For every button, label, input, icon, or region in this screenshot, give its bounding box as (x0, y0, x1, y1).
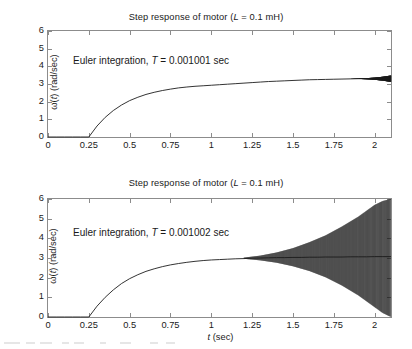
plot-title-bottom-post: = 0.1 mH) (239, 178, 284, 188)
cropped-caption-artifact (0, 336, 412, 348)
plot-title-top-pre: Step response of motor ( (129, 12, 234, 22)
x-tick-label-bottom-2: 0.5 (123, 321, 136, 330)
response-curve-bottom (48, 199, 391, 317)
y-tick-label-bottom-6: 6 (39, 194, 44, 203)
y-tick-label-bottom-5: 5 (39, 214, 44, 223)
plot-panel-bottom: Step response of motor (L = 0.1 mH) ω(t)… (0, 166, 412, 349)
y-tick-label-bottom-2: 2 (39, 273, 44, 282)
figure-two-step-responses: Step response of motor (L = 0.1 mH) ω(t)… (0, 0, 412, 349)
plot-panel-top: Step response of motor (L = 0.1 mH) ω(t)… (0, 0, 412, 168)
x-tick-label-bottom-4: 1 (209, 321, 214, 330)
x-tick-label-bottom-0: 0 (45, 321, 50, 330)
y-tick-label-top-2: 2 (39, 97, 44, 106)
plot-title-bottom: Step response of motor (L = 0.1 mH) (0, 178, 412, 188)
x-tick-label-top-7: 1.75 (325, 141, 343, 150)
plot-title-top-post: = 0.1 mH) (239, 12, 284, 22)
y-tick-label-bottom-1: 1 (39, 293, 44, 302)
x-tick-label-top-4: 1 (209, 141, 214, 150)
y-tick-label-top-6: 6 (39, 26, 44, 35)
y-tick-label-top-0: 0 (39, 132, 44, 141)
response-curve-top (48, 31, 391, 137)
x-tick-label-top-8: 2 (372, 141, 377, 150)
x-tick-label-top-2: 0.5 (123, 141, 136, 150)
x-tick-label-bottom-6: 1.5 (287, 321, 300, 330)
x-tick-label-bottom-1: 0.25 (80, 321, 98, 330)
x-tick-label-bottom-3: 0.75 (161, 321, 179, 330)
x-tick-label-top-1: 0.25 (80, 141, 98, 150)
x-tick-label-bottom-8: 2 (372, 321, 377, 330)
x-tick-label-top-3: 0.75 (161, 141, 179, 150)
plot-axes-bottom: ω(t) (rad/sec) 6 5 4 3 2 1 0 0 (47, 198, 392, 318)
plot-title-top: Step response of motor (L = 0.1 mH) (0, 12, 412, 22)
y-tick-label-bottom-4: 4 (39, 234, 44, 243)
x-tick-label-top-5: 1.25 (243, 141, 261, 150)
y-tick-label-top-3: 3 (39, 79, 44, 88)
y-tick-label-bottom-0: 0 (39, 312, 44, 321)
x-tick-label-top-0: 0 (45, 141, 50, 150)
x-tick-label-bottom-7: 1.75 (325, 321, 343, 330)
y-tick-label-bottom-3: 3 (39, 253, 44, 262)
y-tick-label-top-1: 1 (39, 115, 44, 124)
y-tick-label-top-5: 5 (39, 44, 44, 53)
y-tick-label-top-4: 4 (39, 62, 44, 71)
plot-title-bottom-pre: Step response of motor ( (129, 178, 234, 188)
x-tick-label-top-6: 1.5 (287, 141, 300, 150)
x-tick-label-bottom-5: 1.25 (243, 321, 261, 330)
plot-axes-top: ω(t) (rad/sec) 6 5 4 3 2 1 0 (47, 30, 392, 138)
